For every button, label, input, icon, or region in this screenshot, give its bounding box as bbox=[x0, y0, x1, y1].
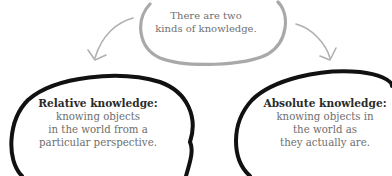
left-node-line-1: knowing objects bbox=[18, 110, 178, 123]
right-node-line-3: they actually are. bbox=[258, 136, 392, 149]
top-node-line-1: There are two bbox=[150, 10, 262, 23]
arrow-left bbox=[95, 18, 133, 58]
right-node-title: Absolute knowledge: bbox=[258, 97, 392, 110]
arrow-right bbox=[296, 24, 330, 58]
right-node-line-1: knowing objects in bbox=[258, 110, 392, 123]
right-node-line-2: the world as bbox=[258, 123, 392, 136]
left-node: Relative knowledge: knowing objects in t… bbox=[18, 97, 178, 149]
right-node: Absolute knowledge: knowing objects in t… bbox=[258, 97, 392, 149]
left-node-line-2: in the world from a bbox=[18, 123, 178, 136]
left-node-line-3: particular perspective. bbox=[18, 136, 178, 149]
top-node-line-2: kinds of knowledge. bbox=[150, 23, 262, 36]
left-node-title: Relative knowledge: bbox=[18, 97, 178, 110]
top-node: There are two kinds of knowledge. bbox=[150, 10, 262, 35]
